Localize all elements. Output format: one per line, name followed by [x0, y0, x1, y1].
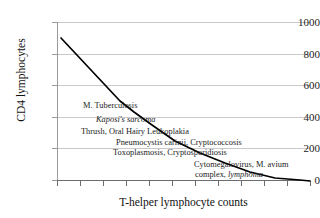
- x-axis-title: T-helper lymphocyte counts: [57, 196, 310, 208]
- y-axis-line: [57, 22, 58, 181]
- x-tick-8: [241, 181, 242, 186]
- gridline-800: [57, 54, 310, 55]
- x-tick-10: [287, 181, 288, 186]
- y-tick-800: [52, 54, 57, 55]
- x-tick-5: [172, 181, 173, 186]
- annotation-complex-lymphoma: complex, lymphoma: [195, 170, 263, 180]
- x-tick-9: [264, 181, 265, 186]
- x-axis-line: [57, 180, 310, 181]
- y-tick-600: [52, 85, 57, 86]
- gridline-1000: [57, 22, 310, 23]
- annotation-complex-text: complex,: [195, 170, 228, 179]
- x-tick-4: [149, 181, 150, 186]
- annotation-kaposi-sarcoma: Kaposi's sarcoma: [96, 115, 155, 125]
- y-tick-label-200: 200: [274, 143, 320, 154]
- cd4-lymphocyte-chart: 1000 800 600 400 200 0 M. Tuberculosis K…: [0, 0, 320, 218]
- annotation-thrush-leukoplakia: Thrush, Oral Hairy Leukoplakia: [81, 127, 189, 137]
- x-tick-3: [126, 181, 127, 186]
- y-axis-title: CD4 lymphocytes: [15, 14, 27, 146]
- x-tick-2: [103, 181, 104, 186]
- annotation-pneumocystis-cryptococcosis: Pneumocystis carinii, Cryptococcosis: [116, 138, 242, 148]
- y-tick-1000: [52, 22, 57, 23]
- y-tick-label-800: 800: [274, 49, 320, 60]
- y-tick-label-0: 0: [274, 175, 320, 186]
- annotation-tuberculosis: M. Tuberculosis: [83, 101, 137, 111]
- annotation-toxoplasmosis-cryptosporidiosis: Toxoplasmosis, Cryptosporidiosis: [113, 148, 227, 158]
- annotation-lymphoma-text: lymphoma: [228, 170, 263, 179]
- x-tick-0: [57, 181, 58, 186]
- x-tick-1: [80, 181, 81, 186]
- annotation-cytomegalovirus-avium: Cytomegalovirus, M. avium: [194, 160, 288, 170]
- gridline-600: [57, 85, 310, 86]
- y-tick-label-600: 600: [274, 80, 320, 91]
- x-tick-7: [218, 181, 219, 186]
- y-tick-400: [52, 117, 57, 118]
- x-tick-11: [310, 181, 311, 186]
- x-tick-6: [195, 181, 196, 186]
- y-tick-label-1000: 1000: [274, 17, 320, 28]
- gridline-400: [57, 117, 310, 118]
- y-tick-label-400: 400: [274, 112, 320, 123]
- y-tick-200: [52, 148, 57, 149]
